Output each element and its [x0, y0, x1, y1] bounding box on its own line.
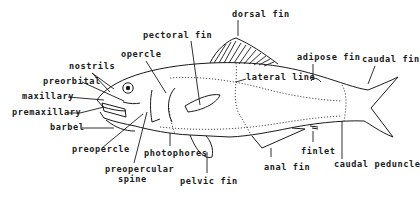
label-preorbital: preorbital — [43, 76, 101, 86]
label-opercle: opercle — [121, 49, 161, 59]
labels: dorsal fin pectoral fin opercle nostrils… — [12, 9, 420, 186]
label-anal-fin: anal fin — [264, 162, 310, 172]
label-spine: spine — [118, 174, 147, 184]
dorsal-fin-rays — [210, 38, 278, 66]
label-lateral-line: lateral line — [246, 72, 315, 82]
label-dorsal-fin: dorsal fin — [232, 9, 290, 19]
label-nostrils: nostrils — [69, 61, 115, 71]
label-caudal-fin: caudal fin — [362, 54, 420, 64]
label-pectoral-fin: pectoral fin — [143, 30, 212, 40]
label-adipose-fin: adipose fin — [297, 52, 361, 62]
label-barbel: barbel — [50, 122, 85, 132]
label-preopercular: preopercular — [105, 164, 174, 174]
label-preopercle: preopercle — [72, 144, 130, 154]
label-photophores: photophores — [144, 148, 208, 158]
label-caudal-peduncle: caudal peduncle — [334, 159, 420, 169]
label-maxillary: maxillary — [22, 91, 74, 101]
fish-anatomy-diagram: dorsal fin pectoral fin opercle nostrils… — [0, 0, 420, 197]
label-pelvic-fin: pelvic fin — [180, 176, 238, 186]
label-premaxillary: premaxillary — [12, 107, 81, 117]
label-finlet: finlet — [301, 146, 336, 156]
